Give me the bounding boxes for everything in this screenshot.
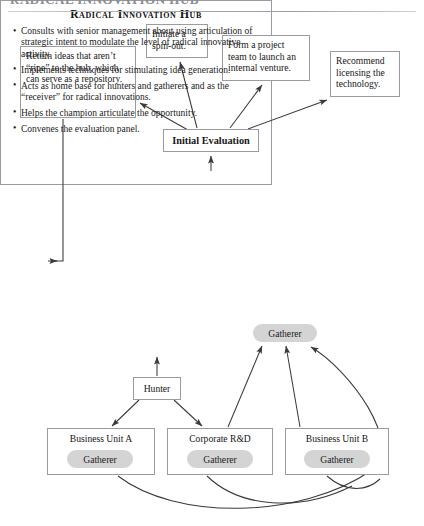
unit-gatherer-pill-a: Gatherer xyxy=(67,450,133,468)
edge-hunter-to-unit-b xyxy=(174,400,202,426)
edge-curve-unit-b-tail xyxy=(327,476,380,488)
outcome-box-license: Recommend licensing the technology. xyxy=(330,51,400,97)
hub-bullet: Acts as home base for hunters and gather… xyxy=(13,81,262,104)
unit-gatherer-pill-c: Gatherer xyxy=(304,450,370,468)
hub-bullet: Helps the champion articulate the opport… xyxy=(13,108,262,119)
edge-corporate-to-gatherer xyxy=(228,346,262,427)
unit-title: Corporate R&D xyxy=(168,433,272,444)
unit-title: Business Unit A xyxy=(48,433,154,444)
edge-unitb-to-gatherer xyxy=(286,346,300,427)
gatherer-label: Gatherer xyxy=(203,454,237,465)
hub-gatherer-pill: Gatherer xyxy=(253,324,317,342)
hub-bullet: Implements techniques for stimulating id… xyxy=(13,65,262,76)
hunter-label: Hunter xyxy=(144,383,171,395)
edge-curve-corporate-tail xyxy=(207,476,352,503)
initial-evaluation-label: Initial Evaluation xyxy=(172,135,250,147)
diagram-canvas: RADICAL INNOVATION HUB xyxy=(0,0,424,526)
unit-gatherer-pill-b: Gatherer xyxy=(187,450,253,468)
hub-bullet: Convenes the evaluation panel. xyxy=(13,124,262,135)
gatherer-label: Gatherer xyxy=(268,328,302,339)
hunter-box: Hunter xyxy=(133,377,181,400)
hub-bullet: Consults with senior management about us… xyxy=(13,26,262,60)
outcome-label: Recommend licensing the technology. xyxy=(336,55,385,89)
gatherer-label: Gatherer xyxy=(83,454,117,465)
edge-return-to-hub xyxy=(53,119,63,261)
gatherer-label: Gatherer xyxy=(320,454,354,465)
edge-hunter-to-unit-a xyxy=(112,400,139,426)
unit-title: Business Unit B xyxy=(286,433,388,444)
hub-bullet-list: Consults with senior management about us… xyxy=(1,26,271,135)
